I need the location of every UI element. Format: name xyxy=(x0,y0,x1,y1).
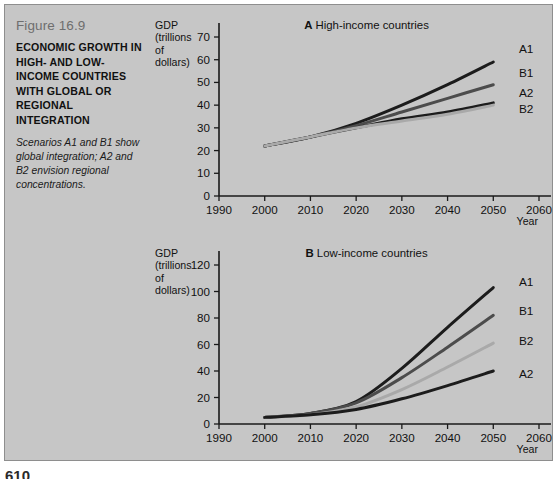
plot-a-label-a2: A2 xyxy=(519,86,533,100)
plot-b-xtick-2030: 2030 xyxy=(389,431,415,444)
plot-a-xtick-2040: 2040 xyxy=(435,203,461,216)
figure-caption-column: Figure 16.9 ECONOMIC GROWTH IN HIGH- AND… xyxy=(5,5,153,460)
chart-a-x-axis-title: Year xyxy=(517,215,538,227)
plot-a-series-b2 xyxy=(265,105,494,146)
plot-a-ytick-30: 30 xyxy=(197,121,210,134)
plot-b-xtick-2000: 2000 xyxy=(252,431,278,444)
plot-a-xtick-2020: 2020 xyxy=(343,203,369,216)
plot-a-xtick-2030: 2030 xyxy=(389,203,415,216)
plot-b-series-b2 xyxy=(265,343,494,417)
chart-high-income: GDP (trillions of dollars) A High-income… xyxy=(153,9,554,231)
plot-a-ytick-10: 10 xyxy=(197,166,210,179)
plot-b-label-b1: B1 xyxy=(519,304,533,318)
plot-b-series-b1 xyxy=(265,315,494,417)
plot-a-ytick-60: 60 xyxy=(197,53,210,66)
plot-b-ytick-120: 120 xyxy=(191,258,210,271)
plot-b-ytick-20: 20 xyxy=(197,391,210,404)
plot-a-label-b1: B1 xyxy=(519,66,533,80)
page-number: 610 xyxy=(5,466,30,479)
plot-b-xtick-2050: 2050 xyxy=(480,431,506,444)
figure-panel: Figure 16.9 ECONOMIC GROWTH IN HIGH- AND… xyxy=(4,4,553,461)
plot-a-label-a1: A1 xyxy=(519,42,533,56)
plot-b-series-a2 xyxy=(265,371,494,417)
plot-a-xtick-2050: 2050 xyxy=(480,203,506,216)
plot-a-ytick-20: 20 xyxy=(197,144,210,157)
plot-a-ytick-70: 70 xyxy=(197,30,210,43)
plot-b-xtick-2040: 2040 xyxy=(435,431,461,444)
plot-a-ytick-40: 40 xyxy=(197,98,210,111)
plot-a-xtick-1990: 1990 xyxy=(206,203,232,216)
plot-b-label-b2: B2 xyxy=(519,334,533,348)
plot-b-ytick-100: 100 xyxy=(191,285,210,298)
chart-a-plot-area: 0102030405060701990200020102020203020402… xyxy=(153,9,554,231)
plot-b-xtick-1990: 1990 xyxy=(206,431,232,444)
plot-b-ytick-60: 60 xyxy=(197,338,210,351)
plot-b-ytick-80: 80 xyxy=(197,311,210,324)
chart-low-income: GDP (trillions of dollars) B Low-income … xyxy=(153,237,554,459)
plot-a-series-a1 xyxy=(265,62,494,146)
chart-b-plot-area: 0204060801001201990200020102020203020402… xyxy=(153,237,554,459)
plot-a-ytick-50: 50 xyxy=(197,75,210,88)
plot-a-label-b2: B2 xyxy=(519,102,533,116)
plot-a-ytick-0: 0 xyxy=(204,189,210,202)
plot-b-label-a1: A1 xyxy=(519,275,533,289)
chart-b-x-axis-title: Year xyxy=(517,443,538,455)
figure-description: Scenarios A1 and B1 show global integrat… xyxy=(16,136,143,193)
figure-title: ECONOMIC GROWTH IN HIGH- AND LOW-INCOME … xyxy=(16,40,143,128)
plot-b-xtick-2010: 2010 xyxy=(298,431,324,444)
plot-a-xtick-2000: 2000 xyxy=(252,203,278,216)
plot-a-xtick-2010: 2010 xyxy=(298,203,324,216)
charts-column: GDP (trillions of dollars) A High-income… xyxy=(153,5,552,460)
plot-b-ytick-0: 0 xyxy=(204,417,210,430)
figure-number: Figure 16.9 xyxy=(16,18,143,33)
plot-b-label-a2: A2 xyxy=(519,367,533,381)
plot-b-xtick-2020: 2020 xyxy=(343,431,369,444)
plot-b-ytick-40: 40 xyxy=(197,364,210,377)
